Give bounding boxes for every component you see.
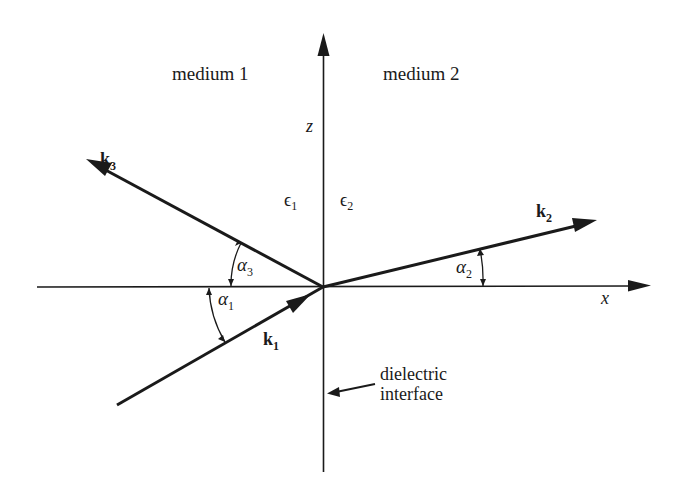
k1-arrowhead-icon <box>286 294 311 313</box>
alpha-3-label: α3 <box>237 254 253 279</box>
interface-label: interface <box>380 384 443 404</box>
x-axis-arrow-icon <box>628 280 651 292</box>
pointer-arrow-icon <box>327 387 340 397</box>
medium-2-label: medium 2 <box>383 63 460 84</box>
alpha-2-label: α2 <box>456 256 472 281</box>
interface-pointer <box>327 384 375 397</box>
angle-arc-alpha2 <box>477 249 486 286</box>
epsilon-1-label: ϵ1 <box>284 190 297 213</box>
dielectric-label: dielectric <box>380 364 447 384</box>
z-axis-arrow-icon <box>318 33 330 56</box>
k1-label: k1 <box>263 329 279 353</box>
k2-arrowhead-icon <box>572 218 597 232</box>
x-axis-label: x <box>600 288 609 308</box>
vector-k3 <box>86 159 323 287</box>
z-axis-label: z <box>305 116 313 136</box>
diagram-canvas: medium 1 medium 2 z x ϵ1 ϵ2 k3 k2 k1 α3 … <box>0 0 685 497</box>
epsilon-2-label: ϵ2 <box>340 190 353 213</box>
k2-label: k2 <box>536 201 552 225</box>
alpha-1-label: α1 <box>218 288 234 313</box>
medium-1-label: medium 1 <box>172 63 249 84</box>
z-axis <box>318 33 330 472</box>
